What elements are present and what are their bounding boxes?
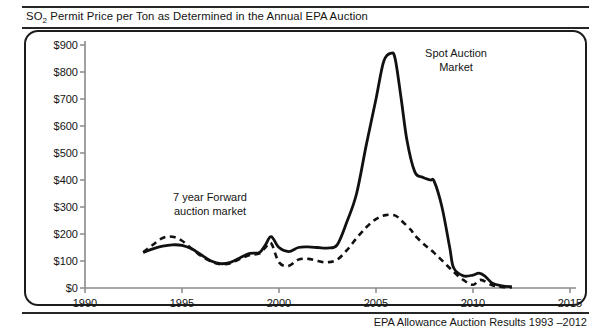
x-axis-tick-label: 1990	[61, 298, 109, 309]
y-axis-tick-label: $700	[26, 94, 78, 105]
title-rule-top	[22, 6, 589, 8]
series-layer	[143, 53, 512, 287]
annotation-spot-market: Spot Auction Market	[396, 46, 516, 74]
y-axis-tick-label: $600	[26, 121, 78, 132]
x-axis-tick-label: 1995	[158, 298, 206, 309]
y-axis-tick-label: $500	[26, 148, 78, 159]
y-axis-tick-label: $300	[26, 202, 78, 213]
figure-container: SO2 Permit Price per Ton as Determined i…	[0, 0, 605, 333]
series-line-1	[143, 53, 512, 287]
x-axis-tick-label: 2010	[449, 298, 497, 309]
y-axis-tick-label: $900	[26, 40, 78, 51]
y-axis-tick-label: $400	[26, 175, 78, 186]
title-subscript: 2	[43, 16, 48, 25]
y-axis-tick-label: $100	[26, 256, 78, 267]
x-axis-tick-label: 2000	[255, 298, 303, 309]
page-title: SO2 Permit Price per Ton as Determined i…	[26, 9, 586, 25]
x-axis-tick-label: 2005	[352, 298, 400, 309]
y-axis-tick-label: $800	[26, 67, 78, 78]
title-rule-bottom	[22, 27, 589, 29]
title-text-rest: Permit Price per Ton as Determined in th…	[47, 10, 368, 22]
title-text-prefix: SO	[26, 10, 43, 22]
axis-layer	[80, 41, 576, 293]
y-axis-tick-label: $200	[26, 229, 78, 240]
x-axis-tick-label: 2015	[546, 298, 594, 309]
source-note: EPA Allowance Auction Results 1993 –2012	[374, 315, 587, 329]
annotation-forward-market: 7 year Forward auction market	[148, 190, 272, 218]
series-line-2	[143, 215, 512, 288]
y-axis-tick-label: $0	[26, 283, 78, 294]
footer-rule	[22, 312, 589, 314]
